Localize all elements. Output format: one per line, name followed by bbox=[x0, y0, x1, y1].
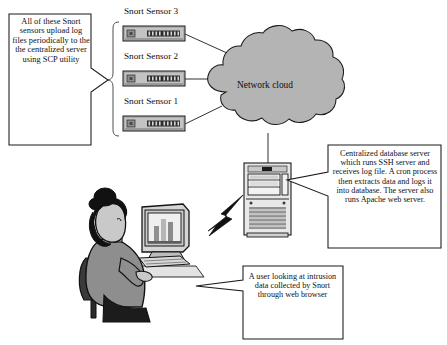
seated-user-figure bbox=[79, 188, 152, 322]
sensor-label-2: Snort Sensor 2 bbox=[124, 51, 178, 61]
centralized-server bbox=[244, 163, 291, 237]
user-workstation-monitor bbox=[139, 204, 190, 267]
callout-right-text: Centralized database server which runs S… bbox=[331, 149, 439, 204]
lightning-bolt-link bbox=[208, 195, 243, 236]
network-diagram: All of these Snort sensors upload log fi… bbox=[0, 0, 447, 345]
sensor-label-1: Snort Sensor 1 bbox=[124, 96, 178, 106]
snort-sensor-3 bbox=[123, 26, 185, 41]
callout-bottom-text: A user looking at intrusion data collect… bbox=[246, 272, 339, 300]
snort-sensor-1 bbox=[123, 116, 185, 131]
network-cloud-shape bbox=[208, 26, 345, 125]
callout-left-text: All of these Snort sensors upload log fi… bbox=[12, 17, 90, 64]
network-cloud-label: Network cloud bbox=[210, 80, 320, 90]
snort-sensor-2 bbox=[123, 71, 185, 86]
sensor-label-3: Snort Sensor 3 bbox=[124, 6, 178, 16]
sensor-group-brace bbox=[108, 22, 119, 136]
link-sensor1-cloud bbox=[185, 106, 222, 124]
